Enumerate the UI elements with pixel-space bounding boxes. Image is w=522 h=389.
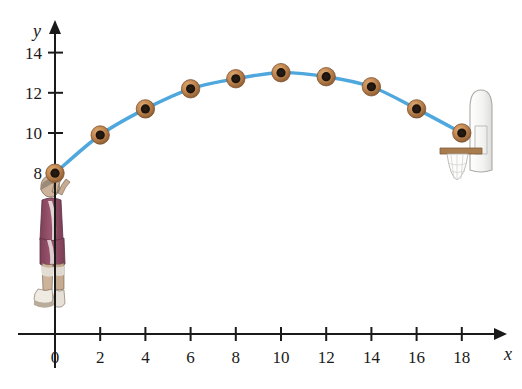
x-tick-label: 8 (232, 348, 241, 367)
x-tick-label: 14 (363, 348, 381, 367)
x-tick-label: 16 (408, 348, 425, 367)
basketball-marker (227, 70, 245, 88)
y-axis-ticks: 8101214 (25, 44, 63, 184)
basketball-marker (362, 78, 380, 96)
y-tick-label: 14 (25, 44, 43, 63)
trajectory-curve (55, 73, 462, 174)
basketball-marker (136, 100, 154, 118)
x-axis-label: x (503, 344, 512, 364)
basketball-marker (407, 100, 425, 118)
axes-group (18, 20, 507, 368)
y-axis-label: y (31, 21, 41, 41)
x-tick-label: 0 (51, 348, 60, 367)
data-point-markers (46, 63, 471, 182)
y-axis-arrow (49, 20, 61, 34)
x-tick-label: 6 (186, 348, 195, 367)
basketball-marker (317, 68, 335, 86)
x-tick-label: 12 (318, 348, 335, 367)
x-axis-arrow (494, 328, 507, 340)
x-tick-label: 18 (453, 348, 470, 367)
y-tick-label: 8 (34, 164, 43, 183)
x-tick-label: 2 (96, 348, 105, 367)
basketball-marker (181, 80, 199, 98)
figure-canvas: 024681012141618 8101214 x y (0, 0, 522, 389)
basketball-marker (272, 63, 290, 81)
basketball-player-figure (34, 176, 70, 308)
y-tick-label: 10 (25, 124, 42, 143)
x-tick-label: 10 (273, 348, 290, 367)
basketball-marker (453, 124, 471, 142)
y-tick-label: 12 (25, 84, 42, 103)
basketball-marker (91, 126, 109, 144)
basketball-marker (46, 164, 64, 182)
trajectory-plot: 024681012141618 8101214 x y (0, 0, 522, 389)
x-tick-label: 4 (141, 348, 150, 367)
